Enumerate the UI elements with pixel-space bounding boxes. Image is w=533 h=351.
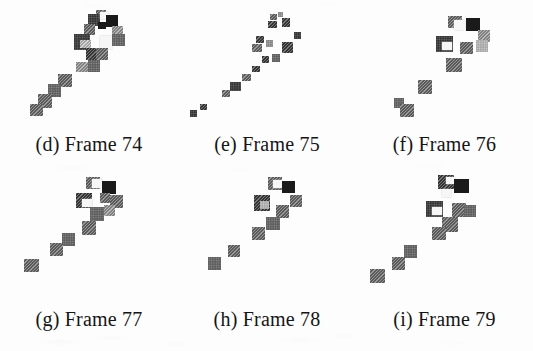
frame-image-d	[0, 0, 178, 132]
blob-cell	[96, 48, 108, 60]
blob-cell	[400, 104, 414, 117]
blob-cell	[278, 12, 283, 17]
blob-cell	[62, 233, 75, 246]
frame-image-i	[356, 175, 533, 307]
blob-cell	[404, 245, 417, 258]
blob-cell	[272, 54, 280, 62]
blob-cell	[90, 207, 104, 221]
blob-cell	[442, 42, 452, 50]
panel-f: (f) Frame 76	[356, 0, 533, 175]
blob-cell	[454, 179, 469, 193]
blob-cell	[464, 205, 476, 217]
caption-e: (e) Frame 75	[178, 132, 356, 156]
blob-cell	[268, 21, 277, 28]
blob-cell	[88, 60, 100, 72]
blob-cell	[252, 227, 265, 240]
blob-cell	[222, 90, 230, 97]
blob-cell	[242, 74, 251, 81]
frame-image-h	[178, 175, 356, 307]
blob-cell	[228, 245, 240, 257]
caption-h-text: (h) Frame 78	[214, 307, 321, 331]
blob-cell	[282, 42, 293, 53]
blob-cell	[270, 14, 277, 20]
blob-cell	[432, 207, 442, 215]
blob-cell	[432, 227, 446, 240]
caption-e-text: (e) Frame 75	[214, 132, 320, 156]
blob-cell	[476, 40, 488, 52]
blob-cell	[273, 180, 282, 188]
caption-f-text: (f) Frame 76	[393, 132, 496, 156]
blob-cell	[190, 110, 197, 117]
blob-cell	[112, 34, 125, 46]
blob-cell	[256, 36, 264, 43]
caption-d-text: (d) Frame 74	[36, 132, 143, 156]
panel-g: (g) Frame 77	[0, 175, 178, 351]
frame-image-e	[178, 0, 356, 132]
blob-cell	[282, 181, 295, 193]
caption-g: (g) Frame 77	[0, 307, 178, 331]
blob-cell	[24, 259, 39, 272]
blob-cell	[392, 257, 405, 270]
panel-d: (d) Frame 74	[0, 0, 178, 175]
blob-cell	[262, 56, 269, 63]
blob-cell	[282, 18, 290, 27]
blob-cell	[290, 195, 302, 207]
blob-cell	[252, 66, 260, 72]
frame-grid: (d) Frame 74 (e) Frame 75 (f) Frame 76 (…	[0, 0, 533, 351]
blob-cell	[442, 189, 451, 197]
blob-cell	[370, 269, 385, 283]
blob-cell	[454, 20, 465, 30]
blob-cell	[92, 179, 102, 188]
blob-cell	[230, 82, 241, 91]
blob-cell	[294, 32, 301, 39]
blob-cell	[252, 44, 262, 52]
blob-cell	[418, 80, 432, 94]
frame-image-f	[356, 0, 533, 132]
caption-f: (f) Frame 76	[356, 132, 533, 156]
caption-i: (i) Frame 79	[356, 307, 533, 331]
blob-cell	[30, 104, 43, 116]
blob-cell	[266, 40, 273, 47]
blob-cell	[98, 22, 106, 29]
blob-cell	[260, 201, 269, 209]
caption-g-text: (g) Frame 77	[36, 307, 143, 331]
panel-e: (e) Frame 75	[178, 0, 356, 175]
blob-cell	[208, 257, 221, 270]
caption-d: (d) Frame 74	[0, 132, 178, 156]
blob-cell	[446, 58, 462, 72]
frame-image-g	[0, 175, 178, 307]
blob-cell	[266, 217, 280, 230]
caption-i-text: (i) Frame 79	[393, 307, 495, 331]
blob-cell	[76, 62, 88, 72]
blob-cell	[104, 205, 115, 216]
blob-cell	[82, 221, 96, 235]
blob-cell	[100, 193, 110, 203]
blob-cell	[460, 42, 473, 54]
blob-cell	[50, 243, 63, 256]
panel-h: (h) Frame 78	[178, 175, 356, 351]
blob-cell	[200, 104, 207, 110]
blob-cell	[80, 40, 91, 48]
panel-i: (i) Frame 79	[356, 175, 533, 351]
caption-h: (h) Frame 78	[178, 307, 356, 331]
blob-cell	[82, 199, 92, 207]
